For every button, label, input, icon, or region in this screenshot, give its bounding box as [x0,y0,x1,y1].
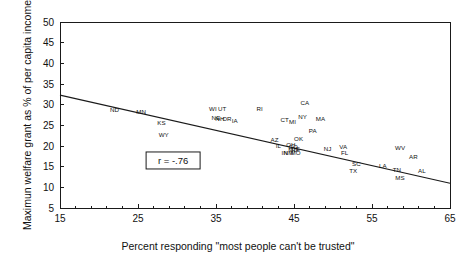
data-point-label: IA [232,117,239,124]
x-tick-label: 35 [210,213,222,224]
data-point-label: UT [218,105,227,112]
plot-frame [60,22,450,208]
data-point-label: RI [256,105,263,112]
x-axis-ticks [60,204,450,208]
data-point-label: AL [418,167,426,174]
data-point-label: WY [159,131,169,138]
data-point-label: MS [395,174,404,181]
y-tick-label: 25 [43,120,55,131]
y-tick-label: 50 [43,17,55,28]
y-tick-label: 45 [43,37,55,48]
data-point-label: MN [136,108,146,115]
data-point-label: ND [110,106,120,113]
y-tick-label: 5 [48,203,54,214]
x-tick-label: 15 [54,213,66,224]
x-axis-tick-labels: 152535455565 [54,213,456,224]
data-point-label: IL [276,142,282,149]
x-tick-label: 45 [288,213,300,224]
y-tick-label: 20 [43,141,55,152]
y-tick-label: 35 [43,79,55,90]
x-tick-label: 65 [444,213,456,224]
data-point-label: FL [341,149,349,156]
data-point-label: MA [316,115,326,122]
data-point-label: TN [393,166,401,173]
chart-canvas: 152535455565 5101520253035404550 NDMNKSW… [0,0,476,260]
data-point-label: MI [289,118,296,125]
y-axis-ticks [60,22,64,208]
x-tick-label: 55 [366,213,378,224]
x-tick-label: 25 [132,213,144,224]
data-point-label: NY [298,113,307,120]
y-axis-tick-labels: 5101520253035404550 [43,17,55,214]
data-point-label: AR [409,153,418,160]
plot-border [60,22,450,208]
y-tick-label: 10 [43,182,55,193]
y-tick-label: 15 [43,161,55,172]
correlation-annotation: r = -.76 [158,155,188,166]
data-point-label: OR [222,115,232,122]
y-tick-label: 30 [43,99,55,110]
data-point-label: NJ [324,145,332,152]
data-point-label: PA [309,127,318,134]
data-point-label: WV [395,144,406,151]
x-axis-title: Percent responding "most people can't be… [121,240,354,252]
data-point-label: TX [349,167,357,174]
data-point-label: MO [290,149,300,156]
y-tick-label: 40 [43,58,55,69]
y-axis-title: Maximun welfare grant as % of per capita… [21,0,33,230]
data-point-label: KS [157,119,165,126]
data-point-label: CA [301,99,311,106]
scatter-plot-figure: 152535455565 5101520253035404550 NDMNKSW… [0,0,476,260]
data-point-label: CT [280,116,289,123]
data-point-label: LA [379,162,388,169]
data-point-label: WI [209,105,217,112]
chart-annotations: r = -.76 [146,152,200,169]
